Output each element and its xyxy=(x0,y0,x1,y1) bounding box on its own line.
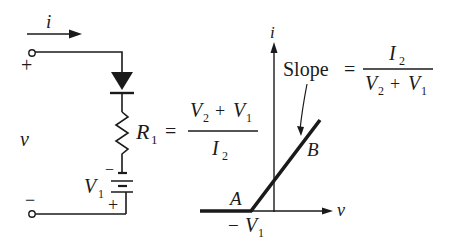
svg-text:+: + xyxy=(215,101,225,121)
svg-text:=: = xyxy=(344,58,355,80)
top-wire xyxy=(35,52,122,72)
x-axis-arrow-icon xyxy=(322,208,333,215)
y-axis-arrow-icon xyxy=(271,42,278,53)
svg-text:2: 2 xyxy=(203,111,209,125)
svg-text:Slope: Slope xyxy=(283,58,329,81)
terminal-plus-label: + xyxy=(21,54,32,76)
svg-text:1: 1 xyxy=(421,84,427,98)
svg-text:I: I xyxy=(388,42,397,64)
svg-text:2: 2 xyxy=(399,54,405,68)
voltage-label: v xyxy=(20,128,29,150)
x-axis-label: v xyxy=(337,200,345,220)
svg-text:+: + xyxy=(390,74,400,94)
circuit: i + R 1 = V 2 + V 1 I 2 v xyxy=(20,11,258,217)
resistance-formula: R 1 = V 2 + V 1 I 2 xyxy=(135,99,258,163)
point-a-label: A xyxy=(228,188,242,209)
diode-icon xyxy=(110,72,134,112)
slope-pointer-arrow-icon xyxy=(297,126,304,136)
current-arrow-icon xyxy=(27,30,82,39)
diode-model-diagram: i + R 1 = V 2 + V 1 I 2 v xyxy=(0,0,458,245)
svg-text:2: 2 xyxy=(222,149,228,163)
svg-text:=: = xyxy=(165,120,176,142)
iv-characteristic-curve xyxy=(200,120,320,211)
terminal-minus-label: − xyxy=(25,190,35,210)
slope-pointer-line xyxy=(300,84,307,130)
battery-label: V xyxy=(84,175,99,197)
y-axis-label: i xyxy=(270,23,275,42)
svg-text:1: 1 xyxy=(98,187,104,201)
battery-plus: + xyxy=(108,195,118,215)
svg-text:1: 1 xyxy=(258,226,264,240)
point-b-label: B xyxy=(307,139,319,160)
svg-text:2: 2 xyxy=(378,84,384,98)
svg-text:R: R xyxy=(135,119,150,144)
x-intercept-sign: − xyxy=(228,215,239,236)
current-label: i xyxy=(46,11,51,32)
battery-minus: − xyxy=(105,161,114,178)
svg-text:1: 1 xyxy=(246,111,252,125)
bottom-terminal xyxy=(29,211,35,217)
svg-text:I: I xyxy=(211,137,220,159)
resistor-icon xyxy=(116,112,128,172)
svg-text:1: 1 xyxy=(151,132,158,147)
